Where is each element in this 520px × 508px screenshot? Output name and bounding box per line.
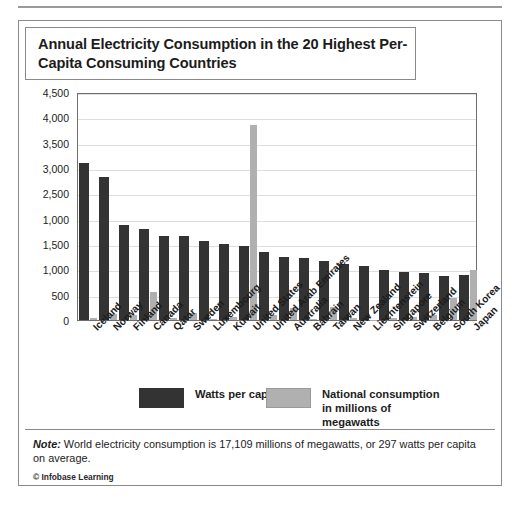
y-axis-tick-label: 1,500 [43, 239, 69, 251]
y-axis-tick-label: 4,500 [43, 87, 69, 99]
legend-entry-national-consumption: National consumption in millions of mega… [266, 387, 450, 429]
y-axis: 4,5004,0003,5003,0002,5001,0001,5001,000… [19, 93, 73, 321]
bar-group [99, 92, 117, 320]
chart-title-box: Annual Electricity Consumption in the 20… [25, 27, 416, 80]
bar-group [79, 92, 97, 320]
legend-swatch-watts-per-capita [139, 388, 184, 408]
bar-watts-per-capita [79, 163, 89, 320]
y-axis-tick-label: 0 [63, 315, 69, 327]
y-axis-tick-label: 3,000 [43, 163, 69, 175]
figure-container: Annual Electricity Consumption in the 20… [18, 20, 502, 486]
bar-group [339, 92, 357, 320]
legend-entry-watts-per-capita: Watts per capita [139, 387, 281, 408]
page-top-rule [18, 6, 502, 8]
bar-group [439, 92, 457, 320]
y-axis-tick-label: 1,000 [43, 214, 69, 226]
bar-watts-per-capita [99, 177, 109, 320]
bar-group [119, 92, 137, 320]
legend-label-national-consumption: National consumption in millions of mega… [322, 387, 450, 429]
note-prefix: Note: [33, 438, 61, 450]
note-text: Note: World electricity consumption is 1… [33, 437, 487, 466]
legend-swatch-national-consumption [266, 388, 311, 408]
chart-legend: Watts per capita National consumption in… [25, 387, 495, 429]
note-body: World electricity consumption is 17,109 … [33, 438, 476, 464]
bar-group [139, 92, 157, 320]
note-box: Note: World electricity consumption is 1… [25, 429, 495, 479]
bar-group [159, 92, 177, 320]
bar-group [459, 92, 477, 320]
bar-group [199, 92, 217, 320]
bar-group [259, 92, 277, 320]
y-axis-tick-label: 4,000 [43, 112, 69, 124]
bar-group [179, 92, 197, 320]
credit-line: © Infobase Learning [33, 472, 487, 482]
y-axis-tick-label: 2,500 [43, 188, 69, 200]
bar-group [219, 92, 237, 320]
bar-group [359, 92, 377, 320]
y-axis-tick-label: 1,000 [43, 264, 69, 276]
y-axis-tick-label: 3,500 [43, 138, 69, 150]
y-axis-tick-label: 500 [51, 290, 69, 302]
chart-title: Annual Electricity Consumption in the 20… [38, 35, 415, 74]
